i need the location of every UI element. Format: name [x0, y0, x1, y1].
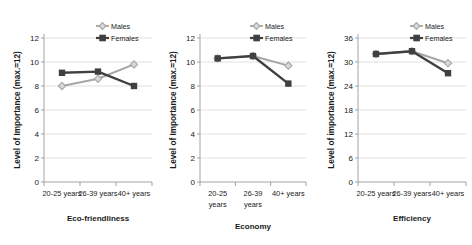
- y-tick-label: 30: [344, 58, 353, 67]
- y-tick-label: 0: [191, 178, 196, 187]
- x-axis-title: Economy: [235, 222, 272, 231]
- x-tick-label: 40+ years: [272, 189, 305, 198]
- data-point-females: [214, 55, 220, 61]
- y-tick-label: 24: [344, 82, 353, 91]
- data-point-females: [409, 48, 415, 54]
- x-tick-label: 20-25 years: [356, 189, 395, 198]
- legend-label-females: Females: [425, 34, 453, 43]
- y-tick-label: 6: [191, 106, 196, 115]
- data-point-females: [250, 53, 256, 59]
- y-tick-label: 6: [349, 154, 354, 163]
- legend-marker-males: [99, 23, 106, 30]
- legend-label-males: Males: [425, 22, 445, 31]
- y-tick-label: 6: [35, 106, 40, 115]
- x-tick-label: 20-25 years: [42, 189, 81, 198]
- y-tick-label: 4: [35, 130, 40, 139]
- legend: MalesFemales: [96, 22, 139, 43]
- legend-label-females: Females: [111, 34, 139, 43]
- y-tick-label: 12: [186, 34, 195, 43]
- chart-panel-efficiency: 06121824303620-25 years26-39 years40+ ye…: [314, 0, 472, 245]
- y-tick-label: 8: [191, 82, 196, 91]
- y-axis-title: Level of importance (max.=12): [327, 51, 336, 169]
- y-tick-label: 4: [191, 130, 196, 139]
- y-tick-label: 10: [186, 58, 195, 67]
- figure-container: 02468101220-25 years26-39 years40+ years…: [0, 0, 472, 245]
- chart-panel-eco-friendliness: 02468101220-25 years26-39 years40+ years…: [0, 0, 158, 245]
- y-axis-title: Level of Importance (max.=12): [169, 51, 178, 169]
- data-point-females: [59, 70, 65, 76]
- chart-svg-0: 02468101220-25 years26-39 years40+ years…: [0, 0, 158, 245]
- legend-label-males: Males: [265, 22, 285, 31]
- x-tick-label: 26-39 years: [392, 189, 431, 198]
- legend-marker-females: [413, 35, 420, 42]
- data-point-females: [95, 68, 101, 74]
- x-axis-title: Efficiency: [393, 214, 431, 223]
- y-tick-label: 0: [35, 178, 40, 187]
- legend-marker-females: [99, 35, 106, 42]
- legend-marker-males: [253, 23, 260, 30]
- x-tick-label: 40+ years: [432, 189, 465, 198]
- chart-svg-1: 02468101220-25years26-39years40+ yearsLe…: [158, 0, 314, 245]
- legend-marker-males: [413, 23, 420, 30]
- data-point-males: [444, 60, 451, 67]
- data-point-males: [58, 82, 65, 89]
- chart-panel-economy: 02468101220-25years26-39years40+ yearsLe…: [158, 0, 314, 245]
- y-tick-label: 12: [30, 34, 39, 43]
- legend: MalesFemales: [250, 22, 293, 43]
- data-point-females: [285, 80, 291, 86]
- x-tick-label: 40+ years: [118, 189, 151, 198]
- legend-label-females: Females: [265, 34, 293, 43]
- legend-marker-females: [253, 35, 260, 42]
- y-tick-label: 8: [35, 82, 40, 91]
- data-point-males: [94, 75, 101, 82]
- y-tick-label: 36: [344, 34, 353, 43]
- y-tick-label: 2: [191, 154, 196, 163]
- data-point-males: [285, 62, 292, 69]
- y-tick-label: 0: [349, 178, 354, 187]
- data-point-females: [373, 51, 379, 57]
- y-tick-label: 2: [35, 154, 40, 163]
- y-tick-label: 12: [344, 130, 353, 139]
- y-tick-label: 10: [30, 58, 39, 67]
- x-tick-label: years: [209, 200, 227, 209]
- x-tick-label: 26-39 years: [78, 189, 117, 198]
- x-axis-title: Eco-friendliness: [67, 214, 130, 223]
- data-point-females: [445, 70, 451, 76]
- y-tick-label: 18: [344, 106, 353, 115]
- legend: MalesFemales: [410, 22, 453, 43]
- x-tick-label: 26-39: [244, 189, 263, 198]
- x-tick-label: years: [244, 200, 262, 209]
- x-tick-label: 20-25: [208, 189, 227, 198]
- legend-label-males: Males: [111, 22, 131, 31]
- data-point-females: [131, 83, 137, 89]
- y-axis-title: Level of Importance (max.=12): [13, 51, 22, 169]
- chart-svg-2: 06121824303620-25 years26-39 years40+ ye…: [314, 0, 472, 245]
